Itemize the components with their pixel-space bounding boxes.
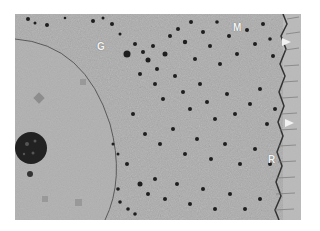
- label-g: G: [97, 42, 105, 52]
- label-r: R: [268, 155, 275, 165]
- electron-micrograph: G M R: [15, 14, 301, 220]
- micrograph-texture: [15, 14, 301, 220]
- arrowhead-upper: [282, 38, 291, 46]
- arrowhead-lower: [285, 119, 294, 127]
- label-m: M: [233, 23, 241, 33]
- dense-body: [15, 132, 47, 164]
